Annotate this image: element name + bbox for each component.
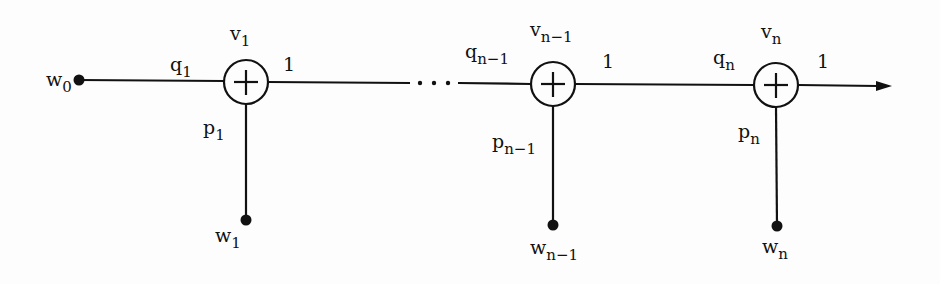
label-q1: q1: [170, 55, 192, 80]
label-wn-1: wn−1: [530, 238, 578, 263]
label-vn-out-weight: 1: [817, 52, 829, 71]
source-dot-w0: [74, 75, 85, 86]
edge-into-vn-1: [458, 83, 531, 84]
label-w1: w1: [215, 226, 241, 251]
source-dot-wn-1: [548, 220, 559, 231]
ellipsis-dot: [418, 81, 422, 85]
ellipsis-dot: [446, 81, 450, 85]
source-dot-w1: [241, 215, 252, 226]
edge-w0-v1: [79, 80, 224, 81]
label-v1-out-weight: 1: [283, 55, 295, 74]
label-qn: qn: [713, 48, 735, 73]
label-vn: vn: [761, 22, 781, 47]
label-wn: wn: [762, 237, 788, 262]
label-pn: pn: [738, 122, 760, 147]
edge-v1-out: [268, 82, 410, 83]
label-w0: w0: [46, 70, 72, 95]
edge-vn-out: [798, 85, 878, 86]
source-dot-wn: [772, 221, 783, 232]
label-pn-1: pn−1: [492, 132, 536, 157]
label-p1: p1: [203, 118, 225, 143]
edge-wn-vn: [776, 107, 777, 226]
label-vn-1-out-weight: 1: [602, 52, 614, 71]
edge-vn-1-vn: [575, 84, 754, 85]
label-qn-1: qn−1: [465, 42, 509, 67]
ellipsis-dot: [432, 81, 436, 85]
arrow-head-icon: [876, 81, 892, 91]
label-vn-1: vn−1: [530, 20, 573, 45]
label-v1: v1: [230, 24, 250, 49]
